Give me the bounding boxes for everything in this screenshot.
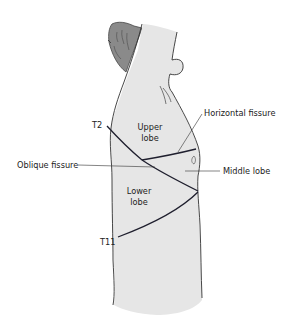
- label-lower-lobe-2: lobe: [130, 197, 148, 207]
- label-upper-lobe-2: lobe: [141, 133, 159, 143]
- lung-lobes-diagram: T2 T11 Upper lobe Lower lobe Horizontal …: [0, 0, 286, 318]
- label-oblique-fissure: Oblique fissure: [17, 160, 78, 170]
- label-middle-lobe: Middle lobe: [223, 166, 270, 176]
- label-upper-lobe-1: Upper: [138, 122, 163, 132]
- label-lower-lobe-1: Lower: [127, 186, 152, 196]
- label-horizontal-fissure: Horizontal fissure: [204, 108, 276, 118]
- label-t2: T2: [91, 120, 102, 130]
- label-t11: T11: [99, 237, 115, 247]
